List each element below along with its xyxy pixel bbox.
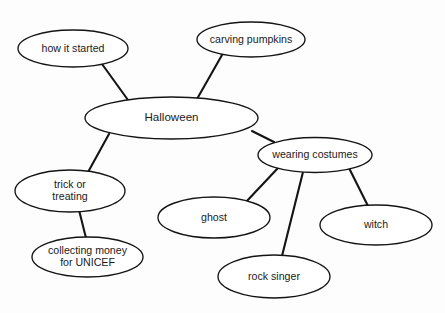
node-wearing-costumes[interactable]: wearing costumes — [258, 138, 372, 173]
node-ghost[interactable]: ghost — [158, 197, 270, 238]
mind-map-canvas: Halloweenhow it startedcarving pumpkinst… — [0, 0, 445, 313]
node-label-halloween: Halloween — [144, 110, 198, 123]
node-halloween[interactable]: Halloween — [85, 97, 258, 139]
edge-trick-or-treating-collecting-money — [79, 210, 86, 238]
node-label-line: for UNICEF — [60, 256, 115, 268]
edge-wearing-costumes-ghost — [245, 168, 278, 203]
node-label-line: trick or — [54, 177, 86, 189]
node-label-line: wearing costumes — [271, 148, 357, 160]
mind-map-svg: Halloweenhow it startedcarving pumpkinst… — [0, 0, 445, 313]
node-label-line: how it started — [41, 41, 104, 53]
node-label-trick-or-treating: trick ortreating — [52, 177, 87, 202]
node-label-how-it-started: how it started — [41, 41, 104, 53]
edge-wearing-costumes-rock-singer — [282, 172, 303, 256]
edge-halloween-carving-pumpkins — [197, 55, 222, 99]
node-label-line: collecting money — [48, 243, 128, 255]
node-witch[interactable]: witch — [320, 205, 432, 245]
edge-halloween-how-it-started — [102, 64, 128, 100]
node-label-line: ghost — [201, 210, 227, 222]
node-label-line: Halloween — [144, 110, 198, 123]
node-label-ghost: ghost — [201, 210, 227, 222]
node-collecting-money[interactable]: collecting moneyfor UNICEF — [32, 237, 143, 277]
node-trick-or-treating[interactable]: trick ortreating — [15, 170, 125, 212]
node-label-rock-singer: rock singer — [248, 269, 300, 281]
edge-wearing-costumes-witch — [349, 168, 368, 206]
node-label-line: rock singer — [248, 269, 300, 281]
edge-halloween-wearing-costumes — [252, 131, 274, 142]
node-label-wearing-costumes: wearing costumes — [271, 148, 357, 160]
nodes-layer: Halloweenhow it startedcarving pumpkinst… — [15, 22, 432, 298]
node-label-carving-pumpkins: carving pumpkins — [210, 32, 292, 44]
node-rock-singer[interactable]: rock singer — [218, 255, 330, 298]
edge-halloween-trick-or-treating — [87, 134, 109, 174]
node-label-line: treating — [52, 190, 87, 202]
node-label-witch: witch — [363, 218, 388, 230]
node-label-line: witch — [363, 218, 388, 230]
node-label-line: carving pumpkins — [210, 32, 292, 44]
node-how-it-started[interactable]: how it started — [18, 30, 128, 67]
node-carving-pumpkins[interactable]: carving pumpkins — [197, 22, 305, 57]
